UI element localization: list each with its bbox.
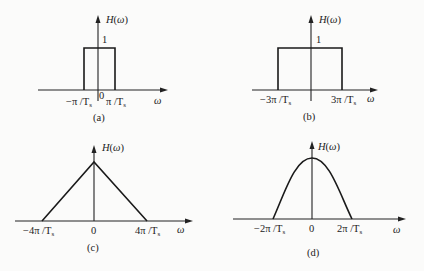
zero-label: 0 (91, 225, 96, 236)
omega-label: ω (393, 224, 400, 235)
y-axis-arrow-icon (309, 15, 314, 23)
tick-pos: 2π /Ts (337, 223, 363, 236)
omega-label: ω (177, 224, 184, 235)
x-axis-arrow-icon (398, 217, 406, 222)
caption-d: (d) (307, 247, 320, 259)
ylabel: H(ω) (317, 141, 341, 153)
y-axis-arrow-icon (96, 15, 101, 23)
zero-label: 0 (309, 223, 314, 234)
omega-label: ω (154, 95, 161, 106)
tick-neg: −2π /Ts (254, 223, 285, 236)
ylabel: H(ω) (101, 142, 125, 154)
rect-response-a (84, 48, 115, 90)
omega-label: ω (367, 93, 374, 104)
tick-neg: −3π /Ts (260, 94, 291, 107)
caption-c: (c) (87, 242, 99, 254)
tick-pos: 3π /Ts (331, 94, 357, 107)
caption-b: (b) (303, 111, 316, 123)
ylabel: H(ω) (318, 14, 342, 26)
rect-response-b (278, 48, 342, 90)
figure-four-frequency-responses: H(ω) 1 0 −π /Ts π /Ts ω (a) H(ω) 1 −3π /… (0, 0, 424, 271)
y-axis-arrow-icon (310, 141, 315, 149)
tick-neg: −4π /Ts (23, 225, 54, 238)
caption-a: (a) (93, 112, 105, 124)
x-axis-arrow-icon (160, 88, 168, 93)
panel-d: H(ω) 0 −2π /Ts 2π /Ts ω (d) (233, 141, 406, 259)
height-label: 1 (102, 34, 107, 45)
height-label: 1 (316, 34, 321, 45)
y-axis-arrow-icon (92, 145, 97, 153)
ylabel: H(ω) (105, 14, 129, 26)
tick-pos: 4π /Ts (135, 225, 161, 238)
tick-neg: −π /Ts (66, 96, 92, 109)
x-axis-arrow-icon (185, 219, 193, 224)
tick-pos: π /Ts (106, 96, 126, 109)
panel-c: H(ω) 0 −4π /Ts 4π /Ts ω (c) (15, 142, 193, 254)
panel-a: H(ω) 1 0 −π /Ts π /Ts ω (a) (38, 14, 168, 124)
x-axis-arrow-icon (370, 88, 378, 93)
panel-b: H(ω) 1 −3π /Ts 3π /Ts ω (b) (252, 14, 378, 123)
zero-label: 0 (99, 90, 104, 101)
